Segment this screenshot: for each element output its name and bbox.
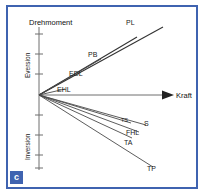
y-axis-upper-region-label: Eversion	[24, 52, 31, 78]
x-axis-title: Kraft	[176, 91, 193, 100]
y-axis-lower-region-label: Inversion	[24, 133, 31, 160]
x-axis-arrowhead	[162, 91, 174, 100]
ray-S	[39, 95, 146, 125]
figure-root: Drehmoment Kraft Eversion Inversion PL P…	[0, 0, 204, 195]
torque-force-plot: Drehmoment Kraft Eversion Inversion PL P…	[0, 0, 204, 195]
series-label-TA: TA	[124, 139, 133, 146]
series-label-TS: TS	[121, 117, 128, 123]
ray-PL	[39, 27, 163, 95]
series-label-FHL: FHL	[126, 129, 139, 136]
ray-TA	[39, 95, 132, 138]
panel-letter-badge: c	[10, 171, 23, 184]
series-label-PB: PB	[88, 51, 98, 58]
y-axis-title: Drehmoment	[29, 18, 73, 27]
series-label-PL: PL	[126, 19, 135, 26]
series-label-EDL: EDL	[69, 70, 83, 77]
series-label-S: S	[144, 120, 149, 127]
series-label-TP: TP	[147, 165, 156, 172]
series-label-EHL: EHL	[57, 86, 71, 93]
